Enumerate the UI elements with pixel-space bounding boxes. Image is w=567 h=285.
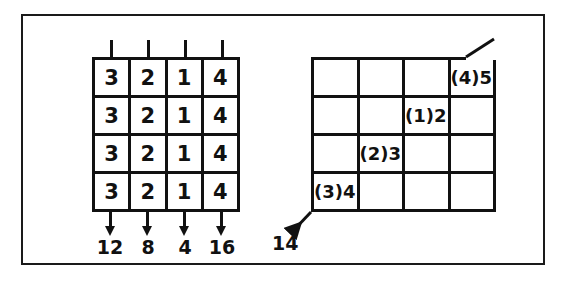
- index-cell-r1c4: (4)5: [451, 60, 497, 98]
- value-cell-text: 4: [213, 180, 228, 204]
- index-cell-r3c4: [451, 136, 497, 174]
- value-cell-text: 1: [177, 180, 192, 204]
- value-cell-text: 2: [141, 66, 156, 90]
- value-cell-r3c3: 1: [168, 136, 204, 174]
- value-cell-text: 1: [177, 104, 192, 128]
- down-arrow-icon-col-3: [179, 212, 190, 236]
- value-cell-r1c2: 2: [131, 60, 167, 98]
- value-cell-r2c3: 1: [168, 98, 204, 136]
- value-cell-r4c3: 1: [168, 174, 204, 212]
- value-cell-r1c1: 3: [95, 60, 131, 98]
- column-sum-labels: 12 8 4 16: [92, 236, 240, 262]
- index-cell-text: (3)4: [314, 181, 356, 202]
- value-cell-r1c3: 1: [168, 60, 204, 98]
- index-cell-r3c1: [314, 136, 360, 174]
- value-cell-r4c1: 3: [95, 174, 131, 212]
- value-cell-r3c4: 4: [204, 136, 240, 174]
- figure-canvas: 3 2 1 4 3 2 1 4 3 2 1 4 3 2 1 4 12 8: [0, 0, 567, 285]
- value-cell-r2c4: 4: [204, 98, 240, 136]
- diagonal-sum-label: 14: [272, 232, 298, 254]
- index-cell-text: (1)2: [405, 105, 447, 126]
- index-cell-r3c2: (2)3: [360, 136, 406, 174]
- column-sum-col-2: 8: [141, 236, 154, 258]
- index-cell-r4c4: [451, 174, 497, 212]
- index-cell-r4c3: [405, 174, 451, 212]
- index-cell-r2c3: (1)2: [405, 98, 451, 136]
- value-cell-text: 3: [104, 66, 119, 90]
- value-grid: 3 2 1 4 3 2 1 4 3 2 1 4 3 2 1 4: [92, 57, 240, 212]
- value-cell-text: 3: [104, 180, 119, 204]
- value-cell-text: 4: [213, 66, 228, 90]
- diagonal-index-grid: (4)5 (1)2 (2)3 (3)4: [311, 57, 466, 212]
- index-cell-text: (2)3: [360, 143, 402, 164]
- index-cell-r2c1: [314, 98, 360, 136]
- column-sum-col-3: 4: [178, 236, 191, 258]
- value-cell-text: 4: [213, 104, 228, 128]
- down-arrow-icon-col-1: [105, 212, 116, 236]
- index-cell-r3c3: [405, 136, 451, 174]
- top-tick-col-4: [221, 40, 224, 58]
- value-cell-r3c2: 2: [131, 136, 167, 174]
- top-tick-col-3: [184, 40, 187, 58]
- left-grid-top-ticks: [92, 40, 240, 58]
- column-sum-col-1: 12: [97, 236, 123, 258]
- value-cell-text: 2: [141, 180, 156, 204]
- value-cell-r1c4: 4: [204, 60, 240, 98]
- value-cell-r4c4: 4: [204, 174, 240, 212]
- value-cell-text: 1: [177, 142, 192, 166]
- column-sum-arrows: [92, 212, 240, 236]
- index-cell-text: (4)5: [451, 67, 493, 88]
- index-cell-r4c2: [360, 174, 406, 212]
- index-cell-r1c3: [405, 60, 451, 98]
- index-cell-r1c2: [360, 60, 406, 98]
- value-cell-text: 3: [104, 142, 119, 166]
- value-cell-text: 2: [141, 104, 156, 128]
- value-cell-r2c1: 3: [95, 98, 131, 136]
- top-tick-col-2: [147, 40, 150, 58]
- value-cell-text: 4: [213, 142, 228, 166]
- value-cell-text: 3: [104, 104, 119, 128]
- value-cell-text: 2: [141, 142, 156, 166]
- down-arrow-icon-col-4: [216, 212, 227, 236]
- index-cell-r4c1: (3)4: [314, 174, 360, 212]
- value-cell-r2c2: 2: [131, 98, 167, 136]
- value-cell-r4c2: 2: [131, 174, 167, 212]
- value-cell-text: 1: [177, 66, 192, 90]
- index-cell-r1c1: [314, 60, 360, 98]
- index-cell-r2c2: [360, 98, 406, 136]
- value-cell-r3c1: 3: [95, 136, 131, 174]
- down-arrow-icon-col-2: [142, 212, 153, 236]
- index-cell-r2c4: [451, 98, 497, 136]
- column-sum-col-4: 16: [209, 236, 235, 258]
- top-tick-col-1: [110, 40, 113, 58]
